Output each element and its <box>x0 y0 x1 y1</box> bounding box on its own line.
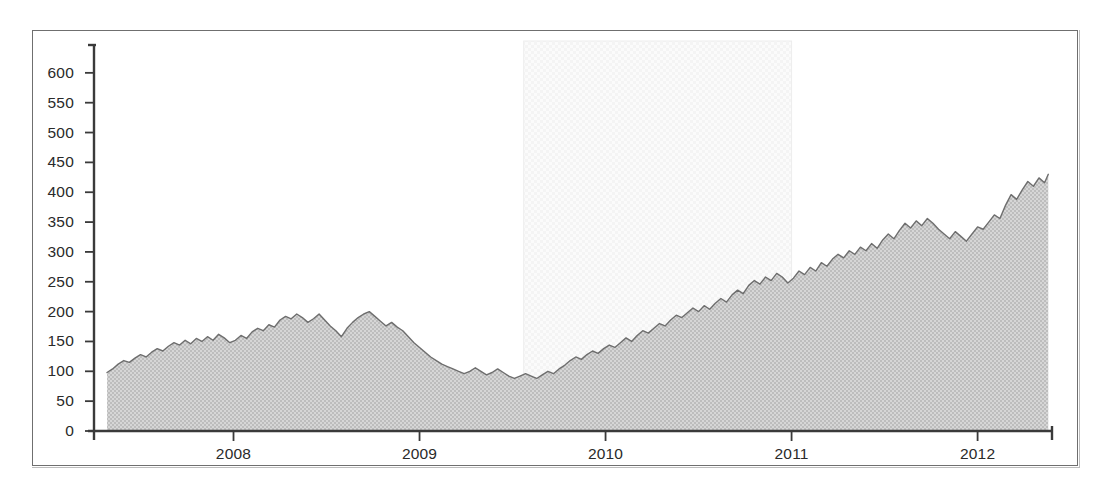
y-tick-label: 250 <box>22 273 74 291</box>
x-tick-label: 2009 <box>380 445 460 463</box>
plot-area: 050100150200250300350400450500550600 200… <box>0 0 1112 484</box>
chart-svg <box>0 0 1112 484</box>
y-tick-label: 150 <box>22 332 74 350</box>
x-axis-ticks <box>234 432 978 441</box>
y-tick-label: 0 <box>22 422 74 440</box>
y-tick-label: 100 <box>22 362 74 380</box>
x-tick-label: 2012 <box>938 445 1018 463</box>
chart-figure: 050100150200250300350400450500550600 200… <box>0 0 1112 484</box>
y-tick-label: 450 <box>22 153 74 171</box>
y-axis-ticks <box>85 73 93 431</box>
y-tick-label: 300 <box>22 243 74 261</box>
x-tick-label: 2008 <box>194 445 274 463</box>
y-tick-label: 200 <box>22 303 74 321</box>
y-tick-label: 600 <box>22 64 74 82</box>
y-tick-label: 500 <box>22 124 74 142</box>
y-tick-label: 350 <box>22 213 74 231</box>
x-tick-label: 2010 <box>566 445 646 463</box>
y-tick-label: 400 <box>22 183 74 201</box>
x-tick-label: 2011 <box>752 445 832 463</box>
y-tick-label: 50 <box>22 392 74 410</box>
y-tick-label: 550 <box>22 94 74 112</box>
